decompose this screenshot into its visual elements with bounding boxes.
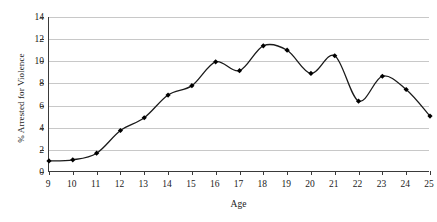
y-axis-tick-mark	[40, 83, 44, 84]
x-axis-tick-label: 10	[60, 178, 84, 190]
x-axis-tick-mark	[168, 171, 169, 175]
x-axis-tick-mark	[192, 171, 193, 175]
y-axis-tick-mark	[40, 150, 44, 151]
x-axis-tick-label: 14	[155, 178, 179, 190]
x-axis-tick-mark	[144, 171, 145, 175]
x-axis-tick-label: 18	[250, 178, 274, 190]
x-axis-tick-mark	[335, 171, 336, 175]
series-path	[49, 44, 430, 161]
line-chart-figure: % Arrested for Violence 02468101214 9101…	[0, 0, 437, 222]
x-axis-tick-mark	[406, 171, 407, 175]
y-axis-tick-mark	[40, 17, 44, 18]
x-axis-title: Age	[48, 198, 429, 210]
series-line	[49, 17, 430, 172]
data-point-marker	[380, 74, 385, 79]
y-axis-tick-mark	[40, 61, 44, 62]
data-point-marker	[213, 59, 218, 64]
data-point-marker	[46, 158, 51, 163]
y-axis-tick-labels: 02468101214	[14, 17, 44, 172]
x-axis-tick-label: 15	[179, 178, 203, 190]
x-axis-tick-label: 19	[274, 178, 298, 190]
y-axis-tick-mark	[40, 172, 44, 173]
y-axis-tick-mark	[40, 39, 44, 40]
x-axis-tick-label: 12	[107, 178, 131, 190]
x-axis-tick-mark	[240, 171, 241, 175]
x-axis-tick-labels: 910111213141516171819202122232425	[48, 178, 429, 192]
y-axis-tick-mark	[40, 106, 44, 107]
x-axis-tick-label: 17	[227, 178, 251, 190]
x-axis-tick-mark	[97, 171, 98, 175]
data-point-marker	[237, 68, 242, 73]
x-axis-tick-label: 20	[298, 178, 322, 190]
x-axis-tick-label: 22	[346, 178, 370, 190]
data-point-marker	[308, 71, 313, 76]
x-axis-tick-mark	[430, 171, 431, 175]
x-axis-tick-label: 11	[84, 178, 108, 190]
x-axis-tick-marks	[49, 171, 429, 175]
x-axis-tick-mark	[73, 171, 74, 175]
data-point-marker	[70, 157, 75, 162]
plot-area	[48, 17, 429, 172]
x-axis-tick-label: 25	[417, 178, 437, 190]
y-axis-tick-mark	[40, 128, 44, 129]
x-axis-tick-label: 21	[322, 178, 346, 190]
x-axis-tick-mark	[120, 171, 121, 175]
x-axis-tick-mark	[216, 171, 217, 175]
x-axis-tick-label: 9	[36, 178, 60, 190]
x-axis-tick-mark	[311, 171, 312, 175]
x-axis-tick-mark	[382, 171, 383, 175]
x-axis-tick-mark	[359, 171, 360, 175]
x-axis-tick-label: 23	[369, 178, 393, 190]
x-axis-tick-mark	[49, 171, 50, 175]
x-axis-tick-mark	[263, 171, 264, 175]
x-axis-tick-label: 16	[203, 178, 227, 190]
x-axis-tick-label: 24	[393, 178, 417, 190]
x-axis-tick-mark	[287, 171, 288, 175]
x-axis-tick-label: 13	[131, 178, 155, 190]
